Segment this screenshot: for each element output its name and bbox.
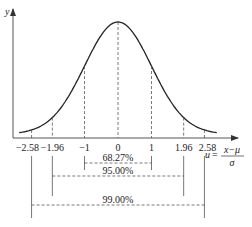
y-axis-label: y — [4, 6, 10, 17]
x-tick-label: 1.96 — [175, 142, 193, 153]
svg-text:u: u — [205, 149, 210, 160]
svg-text:x−μ: x−μ — [223, 144, 240, 155]
x-tick-label: 1 — [149, 142, 154, 153]
dashed-verticals — [32, 22, 205, 138]
x-tick-label: −1.96 — [41, 142, 64, 153]
normal-distribution-diagram: y −2.58−1.96−1011.962.58 u = x−μ σ 68.27… — [0, 0, 252, 227]
interval-label: 68.27% — [103, 152, 134, 163]
x-tick-label: −1 — [79, 142, 90, 153]
interval-label: 95.00% — [103, 165, 134, 176]
interval-label: 99.00% — [103, 194, 134, 205]
confidence-intervals: 68.27%95.00%99.00% — [32, 152, 205, 218]
svg-text:=: = — [212, 149, 218, 160]
x-tick-label: −2.58 — [16, 142, 39, 153]
svg-text:σ: σ — [230, 157, 236, 168]
